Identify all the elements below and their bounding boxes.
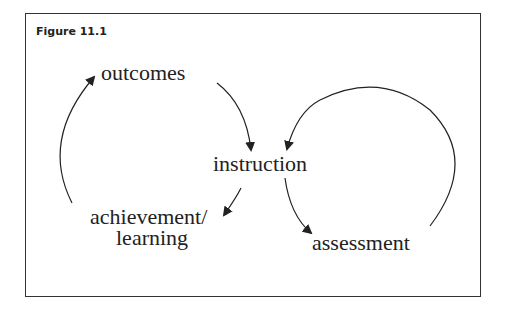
arrow-outcomes-to-instruction (217, 83, 251, 150)
arrow-instruction-to-achievement (224, 188, 241, 215)
arrow-assessment-to-instruction (287, 87, 455, 226)
arrow-achievement-to-outcomes (60, 77, 94, 203)
diagram-arrows (0, 0, 507, 314)
arrow-instruction-to-assessment (285, 178, 311, 233)
